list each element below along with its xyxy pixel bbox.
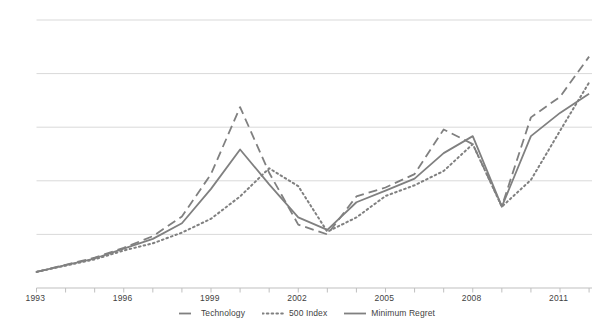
line-chart: 1993199619992002200520082011 Technology5… (0, 0, 609, 333)
chart-legend: Technology500 IndexMinimum Regret (0, 308, 609, 318)
x-tick-label-2005: 2005 (375, 293, 395, 303)
legend-item-technology[interactable]: Technology (174, 308, 245, 318)
series-line-500-index (37, 83, 590, 272)
legend-swatch-solid-icon (344, 310, 366, 317)
x-tick-label-2011: 2011 (549, 293, 568, 303)
legend-swatch-dashed-icon (174, 310, 196, 317)
x-tick-label-2002: 2002 (287, 293, 307, 303)
gridlines (37, 20, 593, 234)
legend-label: 500 Index (289, 308, 327, 318)
x-tick-label-1993: 1993 (26, 293, 46, 303)
legend-label: Technology (201, 308, 245, 318)
x-tick-label-1996: 1996 (113, 293, 133, 303)
x-tick-label-1999: 1999 (200, 293, 220, 303)
legend-item-minimum-regret[interactable]: Minimum Regret (344, 308, 435, 318)
series-line-minimum-regret (37, 94, 590, 272)
plot-area (0, 0, 609, 333)
x-axis-ticks (37, 288, 590, 293)
x-tick-label-2008: 2008 (462, 293, 482, 303)
legend-item-500-index[interactable]: 500 Index (262, 308, 327, 318)
legend-swatch-dotted-icon (262, 310, 284, 317)
legend-label: Minimum Regret (371, 308, 435, 318)
series-lines (37, 57, 590, 272)
series-line-technology (37, 57, 590, 272)
